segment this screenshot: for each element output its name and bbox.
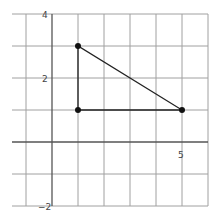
vertex-point: [179, 107, 185, 113]
y-tick-label-neg2: −2: [38, 202, 51, 212]
x-tick-label-5: 5: [178, 150, 184, 160]
vertex-point: [75, 43, 81, 49]
coordinate-plane: 4 2 −2 5: [0, 0, 220, 223]
y-tick-label-4: 4: [42, 10, 48, 20]
vertex-point: [75, 107, 81, 113]
y-tick-label-2: 2: [42, 74, 48, 84]
